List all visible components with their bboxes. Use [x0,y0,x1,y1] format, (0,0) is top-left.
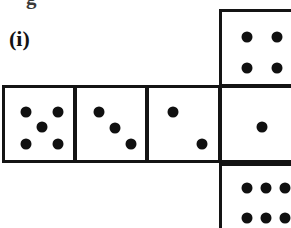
pip-icon [242,32,253,43]
pip-icon [21,139,32,150]
pip-icon [110,123,121,134]
pip-icon [94,107,105,118]
pip-icon [261,183,272,194]
die-face-four-face [219,9,291,87]
pip-icon [257,122,268,133]
pip-icon [53,107,64,118]
pip-group-one-face [222,88,291,160]
pip-icon [272,63,283,74]
figure-label: (i) [9,28,30,50]
die-face-five-face [2,85,76,163]
die-face-one-face [219,85,291,163]
pip-group-six-face [222,166,291,228]
pip-group-five-face [5,88,73,160]
pip-group-two-face [149,88,218,160]
pip-icon [261,213,272,224]
pip-group-three-face [77,88,145,160]
pip-icon [242,183,253,194]
pip-icon [168,107,179,118]
die-face-two-face [146,85,221,163]
pip-icon [242,63,253,74]
pip-group-four-face [222,12,291,84]
die-face-three-face [74,85,148,163]
pip-icon [126,139,137,150]
pip-icon [53,139,64,150]
pip-icon [21,107,32,118]
pip-icon [272,32,283,43]
pip-icon [280,213,291,224]
clipped-text-above: g [26,0,37,8]
pip-icon [242,213,253,224]
pip-icon [37,122,48,133]
figure-canvas: g (i) [0,0,291,228]
pip-icon [197,139,208,150]
pip-icon [280,183,291,194]
die-face-six-face [219,163,291,228]
